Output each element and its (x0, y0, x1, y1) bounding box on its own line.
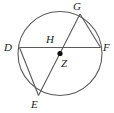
point-label-g: G (73, 0, 81, 12)
circle-diagram-canvas: D E F G H Z (0, 0, 114, 113)
point-label-z: Z (61, 57, 68, 69)
point-label-f: F (102, 41, 110, 53)
center-point-z-dot (57, 51, 62, 56)
chord-gf (80, 14, 101, 48)
point-label-d: D (3, 41, 12, 53)
point-label-h: H (45, 33, 55, 45)
geometry-figure: D E F G H Z (0, 0, 114, 113)
point-label-e: E (30, 98, 38, 110)
